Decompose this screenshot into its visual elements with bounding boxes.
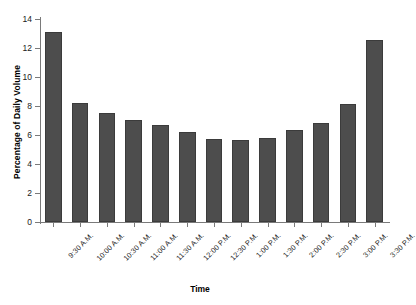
bar (45, 32, 62, 222)
y-axis-tick (35, 222, 40, 223)
x-axis-tick-label: 3:00 P.M. (361, 231, 389, 259)
x-axis-tick-label: 11:00 A.M. (148, 231, 179, 262)
y-axis-title: Percentage of Daily Volume (12, 42, 22, 202)
bar (152, 125, 169, 222)
y-axis-tick-label: 2 (6, 189, 32, 198)
x-axis-tick-label: 10:30 A.M. (121, 231, 153, 263)
bar (340, 104, 357, 222)
plot-area (40, 19, 388, 222)
y-axis-tick-label: 8 (6, 102, 32, 111)
x-axis-tick (294, 222, 295, 227)
bar (99, 113, 116, 222)
bar (179, 132, 196, 222)
y-axis-tick-label: 0 (6, 218, 32, 227)
x-axis-tick (160, 222, 161, 227)
x-axis-tick-label: 9:30 A.M. (67, 231, 96, 260)
x-axis-tick (321, 222, 322, 227)
x-axis-tick (268, 222, 269, 227)
x-axis-tick (187, 222, 188, 227)
x-axis-tick-label: 10:00 A.M. (95, 231, 127, 263)
bar (286, 130, 303, 222)
x-axis-tick-label: 12:30 P.M. (228, 231, 259, 262)
x-axis-tick-label: 3:30 P.M. (388, 231, 416, 259)
x-axis-tick (348, 222, 349, 227)
bar (125, 120, 142, 222)
x-axis-tick (241, 222, 242, 227)
bar (206, 139, 223, 222)
bar (313, 123, 330, 222)
bar (259, 138, 276, 222)
x-axis-tick-label: 1:30 P.M. (281, 231, 309, 259)
x-axis-tick-label: 12:00 P.M. (202, 231, 233, 262)
x-axis-tick (80, 222, 81, 227)
y-axis-tick-label: 12 (6, 44, 32, 53)
x-axis-tick (53, 222, 54, 227)
y-axis-tick-label: 14 (6, 15, 32, 24)
x-axis-tick (134, 222, 135, 227)
x-axis-tick (214, 222, 215, 227)
y-axis-tick-label: 10 (6, 73, 32, 82)
bar (232, 140, 249, 222)
x-axis-tick (375, 222, 376, 227)
y-axis-tick-label: 6 (6, 131, 32, 140)
bar (72, 103, 89, 222)
x-axis-line (40, 222, 390, 223)
x-axis-tick (107, 222, 108, 227)
x-axis-tick-label: 2:00 P.M. (307, 231, 335, 259)
x-axis-tick-label: 11:30 A.M. (175, 231, 206, 262)
y-axis-tick-label: 4 (6, 160, 32, 169)
x-axis-tick-label: 2:30 P.M. (334, 231, 362, 259)
bar (366, 40, 383, 222)
x-axis-title: Time (0, 284, 400, 294)
